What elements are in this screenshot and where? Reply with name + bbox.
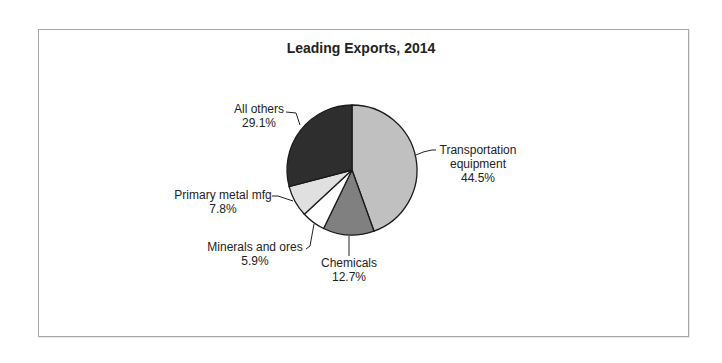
label-text: All others: [228, 102, 290, 116]
label-value: 5.9%: [200, 254, 310, 268]
pie-slices: [287, 105, 417, 235]
label-transportation: Transportation equipment 44.5%: [428, 143, 528, 185]
label-text: equipment: [428, 157, 528, 171]
label-value: 7.8%: [170, 202, 276, 216]
pie-chart: [0, 0, 722, 363]
label-text: Primary metal mfg: [170, 188, 276, 202]
label-chemicals: Chemicals 12.7%: [312, 256, 386, 284]
label-minerals: Minerals and ores 5.9%: [200, 240, 310, 268]
label-text: Transportation: [428, 143, 528, 157]
label-all-others: All others 29.1%: [228, 102, 290, 130]
label-text: Minerals and ores: [200, 240, 310, 254]
label-value: 44.5%: [428, 171, 528, 185]
label-text: Chemicals: [312, 256, 386, 270]
label-value: 29.1%: [228, 116, 290, 130]
label-value: 12.7%: [312, 270, 386, 284]
label-primary-metal: Primary metal mfg 7.8%: [170, 188, 276, 216]
